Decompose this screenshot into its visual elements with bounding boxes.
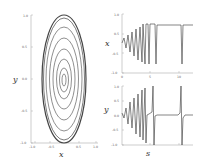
y-vs-s-chart: 1.0 0.5 0.0 -0.5 -1.0 y s (103, 85, 193, 158)
y-tick: -0.5 (21, 109, 27, 113)
y-tick: 0.5 (22, 45, 27, 49)
y-tick: -0.5 (112, 128, 118, 132)
y-tick: -1.0 (111, 143, 117, 147)
figure: 1.0 0.5 0.0 -0.5 -1.0 -1.0 -0.5 0.5 1.0 … (0, 0, 203, 161)
y-tick: 0.5 (114, 99, 119, 103)
y-tick: -1.0 (20, 141, 26, 145)
y-axis-label: y (12, 75, 18, 84)
spiral-curve (42, 15, 86, 143)
y-tick: -0.5 (112, 52, 118, 56)
x-axis-label: x (59, 150, 64, 159)
x-tick: 10 (177, 75, 181, 79)
x-tick: 5 (149, 75, 151, 79)
y-axis-label: y (103, 105, 109, 114)
y-tick: 1.0 (114, 85, 119, 89)
x-vs-s-chart: 1.0 0.5 -0.5 -1.0 0 5 10 x (105, 13, 193, 79)
x-axis-label: s (146, 149, 150, 158)
x-tick: 0.5 (76, 145, 81, 149)
x-tick: -1.0 (29, 145, 35, 149)
x-series-line (122, 24, 193, 64)
y-tick: -1.0 (111, 71, 117, 75)
y-tick: 0.0 (114, 114, 119, 118)
spiral-chart: 1.0 0.5 0.0 -0.5 -1.0 -1.0 -0.5 0.5 1.0 … (12, 14, 98, 159)
y-tick: 0.5 (114, 32, 119, 36)
y-tick: 0.0 (22, 77, 27, 81)
x-tick: 1.0 (93, 145, 98, 149)
y-tick: 1.0 (114, 13, 119, 17)
y-series-line (122, 86, 193, 145)
y-tick: 1.0 (23, 14, 28, 18)
y-axis-label: x (105, 39, 110, 48)
x-tick: 0 (121, 75, 123, 79)
x-tick: -0.5 (48, 145, 54, 149)
